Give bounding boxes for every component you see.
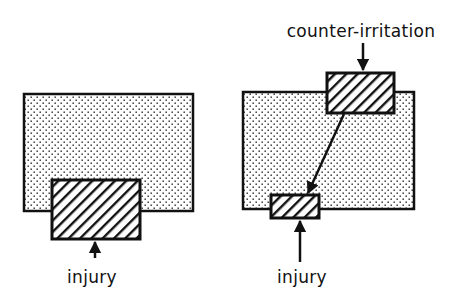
counter-irritation-label: counter-irritation (287, 21, 436, 41)
injury-label: injury (67, 267, 117, 287)
injury-label: injury (277, 267, 327, 287)
diagram-canvas: injury counter-irritation injury (0, 0, 471, 302)
counter-irritation-box (327, 73, 394, 113)
injury-box (271, 195, 319, 218)
right-panel: counter-irritation injury (243, 21, 435, 287)
injury-box (52, 180, 140, 239)
left-panel: injury (24, 94, 193, 287)
